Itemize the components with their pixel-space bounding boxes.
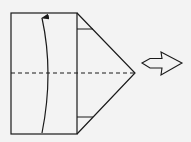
origami-diagram — [0, 0, 191, 142]
fold-direction-arrow-icon — [42, 18, 48, 133]
turn-over-arrow-icon — [142, 52, 182, 75]
